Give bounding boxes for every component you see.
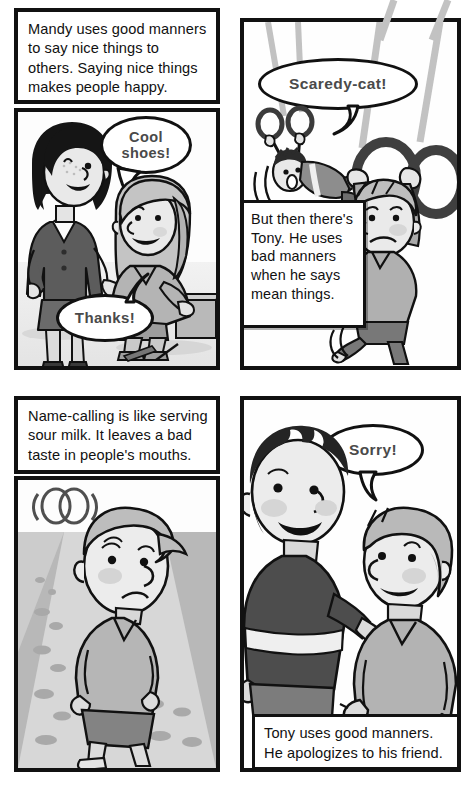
comic-panel-bottom-right: Sorry! xyxy=(240,396,461,772)
balloon-scaredy-cat-text: Scaredy-cat! xyxy=(289,75,387,92)
character-sad-boy xyxy=(58,500,192,768)
ground-sticks xyxy=(122,342,188,364)
comic-panel-top-right: Scaredy-cat! xyxy=(240,18,461,370)
panel-3-scene xyxy=(18,480,216,768)
balloon-cool-shoes-text: Cool shoes! xyxy=(103,129,189,161)
comic-panel-bottom-left-art-frame xyxy=(14,476,220,772)
panel-1-scene: Cool shoes! xyxy=(18,112,216,366)
panel-4-scene: Sorry! xyxy=(244,400,457,768)
comic-page: Mandy uses good manners to say nice thin… xyxy=(0,0,475,798)
balloon-scaredy-cat: Scaredy-cat! xyxy=(258,58,418,110)
panel-1-caption: Mandy uses good manners to say nice thin… xyxy=(18,12,216,100)
balloon-thanks-tail xyxy=(122,272,156,306)
balloon-thanks-text: Thanks! xyxy=(75,310,135,327)
comic-panel-top-left-art-frame: Cool shoes! xyxy=(14,108,220,370)
gym-ropes-overhang xyxy=(352,0,475,40)
panel-3-caption: Name-calling is like serving sour milk. … xyxy=(18,400,216,470)
panel-2-caption: But then there's Tony. He uses bad manne… xyxy=(240,200,366,328)
panel-4-caption: Tony uses good manners. He apologizes to… xyxy=(252,714,460,770)
